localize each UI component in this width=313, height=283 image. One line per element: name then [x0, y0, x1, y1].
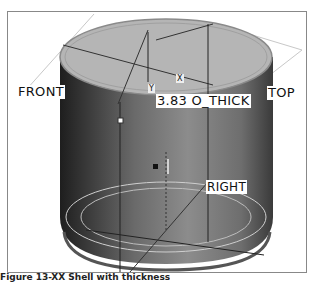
origin-point	[153, 164, 158, 169]
front-plane-label[interactable]: FRONT	[17, 85, 65, 99]
dimension-anchor	[118, 118, 123, 123]
top-plane-label[interactable]: TOP	[267, 86, 296, 100]
right-plane-label[interactable]: RIGHT	[206, 180, 247, 194]
figure-caption: Figure 13-XX Shell with thickness	[0, 272, 170, 283]
model-viewport[interactable]: FRONT TOP RIGHT 3.83 O_THICK Y X	[7, 11, 307, 273]
x-axis-label: X	[176, 74, 184, 83]
y-axis-label: Y	[148, 84, 155, 93]
thickness-dimension[interactable]: 3.83 O_THICK	[156, 94, 251, 108]
top-face	[60, 19, 272, 95]
shelled-cylinder-model	[8, 12, 306, 272]
